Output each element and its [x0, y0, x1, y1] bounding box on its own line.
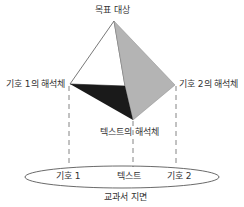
sign1-label: 기호 1 [56, 172, 81, 181]
dark-face [70, 84, 133, 120]
sign2-interpretant-label: 기호 2의 해석체 [179, 80, 238, 89]
sign2-label: 기호 2 [167, 172, 192, 181]
sign1-interpretant-label: 기호 1의 해석체 [6, 80, 65, 89]
textbook-page-label: 교과서 지면 [104, 193, 147, 202]
text-label: 텍스트 [117, 172, 141, 181]
target-label: 목표 대상 [95, 6, 130, 15]
text-interpretant-label: 텍스트의 해석체 [100, 128, 159, 137]
